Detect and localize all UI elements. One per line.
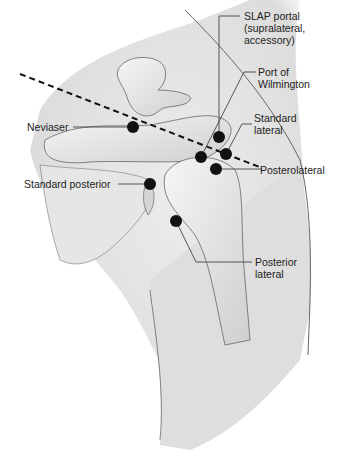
portal-dot-posterolateral bbox=[210, 163, 222, 175]
shoulder-portal-diagram: SLAP portal (supralateral, accessory) Po… bbox=[0, 0, 340, 464]
portal-dot-neviaser bbox=[127, 121, 139, 133]
label-neviaser: Neviaser bbox=[27, 121, 68, 133]
portal-dot-standard-posterior bbox=[144, 178, 156, 190]
label-posterolateral: Posterolateral bbox=[260, 164, 325, 176]
label-slap-portal: SLAP portal (supralateral, accessory) bbox=[244, 10, 305, 46]
portal-dot-slap bbox=[213, 131, 225, 143]
portal-dot-wilmington bbox=[195, 151, 207, 163]
portal-dot-posterior-lateral bbox=[170, 215, 182, 227]
label-posterior-lateral: Posterior lateral bbox=[255, 256, 297, 280]
label-standard-lateral: Standard lateral bbox=[254, 112, 297, 136]
portal-dot-standard-lateral bbox=[220, 148, 232, 160]
label-standard-posterior: Standard posterior bbox=[24, 178, 110, 190]
label-port-of-wilmington: Port of Wilmington bbox=[258, 66, 310, 90]
